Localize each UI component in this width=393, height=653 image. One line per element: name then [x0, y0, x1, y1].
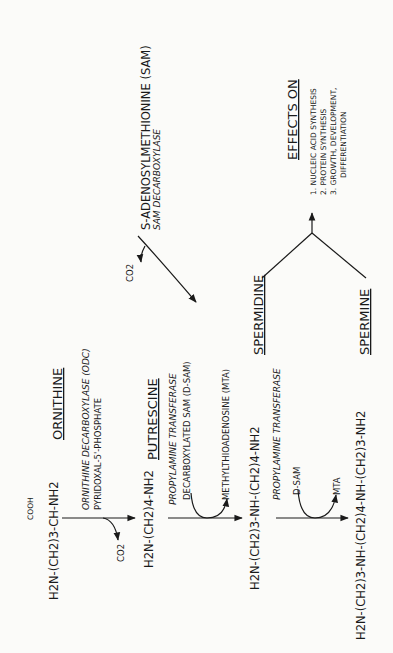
ornithine-formula-main: H2N-(CH2)3-CH-NH2: [47, 481, 61, 600]
dsam-input-label-1: DECARBOXYLATED SAM (D-SAM): [182, 361, 192, 500]
putrescine-formula: H2N-(CH2)4-NH2: [142, 470, 156, 568]
ornithine-label: ORNITHINE: [50, 368, 65, 440]
putrescine-label: PUTRESCINE: [145, 378, 160, 460]
ornithine-formula: COOH H2N-(CH2)3-CH-NH2: [26, 481, 61, 600]
propylamine-transferase-label-2: PROPYLAMINE TRANSFERASE: [272, 368, 282, 500]
propylamine-transferase-label-1: PROPYLAMINE TRANSFERASE: [168, 373, 178, 505]
spermine-label: SPERMINE: [357, 289, 372, 355]
co2-release-arrow-1: [103, 518, 118, 540]
effect-item-3: 3. GROWTH, DEVELOPMENT,: [329, 88, 338, 195]
dsam-mta-cofactor-arc-2: [298, 490, 336, 518]
effects-title: EFFECTS ON: [285, 79, 300, 160]
spermidine-formula: H2N-(CH2)3-NH-(CH2)4-NH2: [248, 426, 262, 590]
co2-label-2: CO2: [125, 264, 135, 282]
mta-output-label-1: METHYLTHIOADENOSINE (MTA): [221, 369, 231, 500]
odc-enzyme-label: ORNITHINE DECARBOXYLASE (ODC): [81, 348, 91, 510]
effect-item-2: 2. PROTEIN SYNTHESIS: [319, 108, 328, 195]
co2-release-arrow-2: [141, 246, 145, 262]
ornithine-cooh: COOH: [26, 497, 35, 520]
spermine-to-effects-line: [312, 233, 366, 278]
sam-label: S-ADENOSYLMETHIONINE (SAM): [139, 45, 153, 230]
dsam-input-label-2: D-SAM: [292, 467, 302, 495]
spermidine-to-effects-line: [262, 233, 312, 278]
plp-cofactor-label: PYRIDOXAL-5'-PHOSPHATE: [93, 398, 103, 510]
effect-item-3-cont: DIFFERENTIATION: [339, 111, 348, 178]
effect-item-1: 1. NUCLEIC ACID SYNTHESIS: [309, 88, 318, 195]
arrow-sam-to-dsam: [138, 236, 196, 302]
polyamine-pathway-diagram: COOH H2N-(CH2)3-CH-NH2 ORNITHINE ORNITHI…: [0, 0, 393, 653]
sam-decarboxylase-label: SAM DECARBOXYLASE: [152, 129, 162, 230]
co2-label-1: CO2: [116, 544, 126, 562]
spermidine-label: SPERMIDINE: [251, 275, 266, 355]
spermine-formula: H2N-(CH2)3-NH-(CH2)4-NH-(CH2)3-NH2: [354, 411, 368, 640]
mta-output-label-2: MTA: [332, 477, 342, 495]
